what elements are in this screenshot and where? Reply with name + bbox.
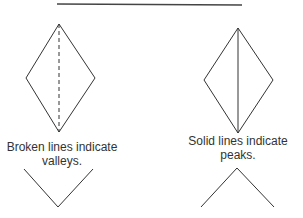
peak-caption-line2: peaks. — [176, 148, 300, 162]
top-rule — [57, 4, 242, 5]
peak-caption-line1: Solid lines indicate — [176, 134, 300, 148]
peak-caption: Solid lines indicate peaks. — [176, 134, 300, 162]
valley-caption-line2: valleys. — [0, 154, 124, 168]
peak-diamond — [204, 28, 273, 133]
fold-diagram — [0, 0, 303, 218]
valley-caption: Broken lines indicate valleys. — [0, 140, 124, 168]
valley-caption-line1: Broken lines indicate — [0, 140, 124, 154]
peak-v-shape — [201, 168, 274, 207]
valley-diamond — [26, 24, 95, 132]
valley-v-shape — [24, 169, 93, 207]
